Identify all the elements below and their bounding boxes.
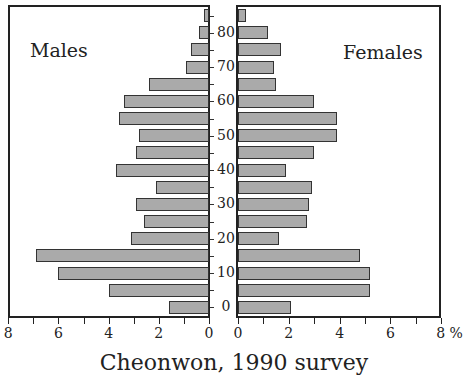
males-title: Males: [30, 39, 88, 61]
chart-caption: Cheonwon, 1990 survey: [0, 350, 468, 375]
x-tick-label-males: 0: [199, 325, 219, 341]
female-bar-0-4: [238, 301, 291, 314]
male-bar-50-54: [139, 129, 209, 142]
male-bar-5-9: [109, 284, 209, 297]
x-tick: [58, 318, 59, 324]
female-bar-65-69: [238, 78, 276, 91]
x-tick: [441, 318, 442, 324]
x-tick-label-males: 8: [0, 325, 18, 341]
female-bar-55-59: [238, 112, 337, 125]
age-tick: [210, 256, 214, 257]
male-bar-75-79: [191, 43, 209, 56]
age-label: 10: [213, 264, 239, 280]
females-title: Females: [343, 41, 423, 63]
x-tick: [109, 318, 110, 324]
female-bar-45-49: [238, 146, 314, 159]
x-tick: [340, 318, 341, 324]
age-tick: [210, 84, 214, 85]
age-label: 50: [213, 127, 239, 143]
age-label: 0: [213, 298, 239, 314]
x-tick-label-males: 4: [99, 325, 119, 341]
male-bar-80-84: [199, 26, 209, 39]
male-bar-0-4: [169, 301, 209, 314]
female-bar-70-74: [238, 61, 274, 74]
male-bar-45-49: [136, 146, 209, 159]
age-tick: [210, 50, 214, 51]
female-bar-85+: [238, 9, 246, 22]
x-tick: [134, 318, 135, 324]
x-tick: [314, 318, 315, 324]
age-tick: [210, 290, 214, 291]
male-bar-70-74: [186, 61, 209, 74]
age-label: 40: [213, 161, 239, 177]
x-tick-label-females: 6: [380, 325, 400, 341]
male-bar-55-59: [119, 112, 209, 125]
age-label: 20: [213, 230, 239, 246]
female-bar-35-39: [238, 181, 312, 194]
female-bar-10-14: [238, 267, 370, 280]
x-tick-label-females: 8 %: [436, 325, 468, 341]
female-bar-50-54: [238, 129, 337, 142]
age-tick: [210, 153, 214, 154]
female-bar-60-64: [238, 95, 314, 108]
age-tick: [210, 222, 214, 223]
x-tick-label-females: 2: [279, 325, 299, 341]
female-bar-40-44: [238, 164, 286, 177]
female-bar-20-24: [238, 232, 279, 245]
female-bar-80-84: [238, 26, 268, 39]
age-label: 80: [213, 24, 239, 40]
male-bar-20-24: [131, 232, 209, 245]
x-tick-label-females: 0: [228, 325, 248, 341]
x-tick: [263, 318, 264, 324]
x-tick: [159, 318, 160, 324]
age-tick: [210, 16, 214, 17]
x-tick: [8, 318, 9, 324]
x-tick: [209, 318, 210, 324]
x-tick-label-males: 2: [149, 325, 169, 341]
male-bar-85+: [204, 9, 209, 22]
x-tick-label-females: 4: [330, 325, 350, 341]
x-tick: [184, 318, 185, 324]
female-bar-15-19: [238, 249, 360, 262]
age-label: 30: [213, 195, 239, 211]
x-tick: [365, 318, 366, 324]
x-tick: [289, 318, 290, 324]
age-tick: [210, 119, 214, 120]
x-tick: [390, 318, 391, 324]
x-tick: [33, 318, 34, 324]
female-bar-30-34: [238, 198, 309, 211]
male-bar-10-14: [58, 267, 209, 280]
x-tick-label-males: 6: [48, 325, 68, 341]
age-label: 70: [213, 58, 239, 74]
x-tick: [238, 318, 239, 324]
female-bar-25-29: [238, 215, 307, 228]
female-bar-5-9: [238, 284, 370, 297]
age-label: 60: [213, 92, 239, 108]
x-tick: [416, 318, 417, 324]
female-bar-75-79: [238, 43, 281, 56]
male-bar-30-34: [136, 198, 209, 211]
male-bar-15-19: [36, 249, 209, 262]
age-tick: [210, 187, 214, 188]
male-bar-60-64: [124, 95, 209, 108]
x-tick: [84, 318, 85, 324]
male-bar-25-29: [144, 215, 209, 228]
male-bar-35-39: [156, 181, 209, 194]
male-bar-65-69: [149, 78, 209, 91]
male-bar-40-44: [116, 164, 209, 177]
